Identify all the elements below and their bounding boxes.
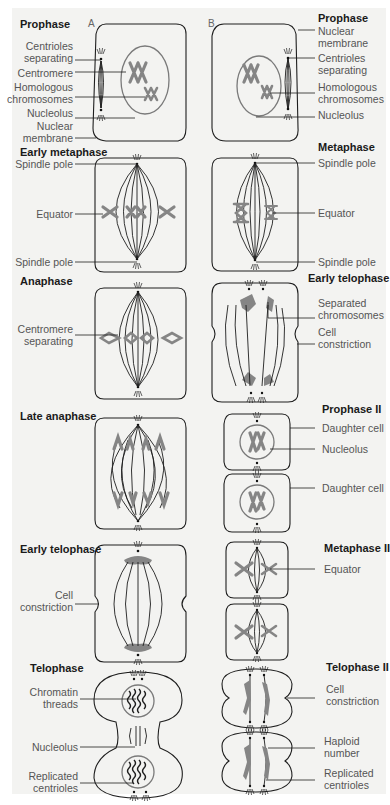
stage-title-b-metaphase-ii: Metaphase II <box>324 542 390 554</box>
label-centromere-separating: Centromereseparating <box>18 323 73 347</box>
stage-title-b-metaphase: Metaphase <box>318 141 375 153</box>
label-b-spindle-pole-top: Spindle pole <box>318 157 376 169</box>
label-homologous-chromosomes: Homologouschromosomes <box>7 81 73 105</box>
label-b-replicated-centrioles: Replicatedcentrioles <box>324 767 374 791</box>
cell-a-early-telophase <box>75 541 186 665</box>
stage-title-a-telophase: Telophase <box>30 662 84 674</box>
cell-b-prophase-ii <box>224 412 315 533</box>
stage-title-a-early-metaphase: Early metaphase <box>20 146 107 158</box>
stage-title-a-prophase: Prophase <box>20 18 70 30</box>
label-b-homologous-chromosomes: Homologouschromosomes <box>318 81 384 105</box>
stage-title-a-late-anaphase: Late anaphase <box>20 410 96 422</box>
cell-b-prophase <box>212 24 315 141</box>
label-b-centrioles-separating: Centriolesseparating <box>318 52 367 76</box>
stage-title-a-early-telophase: Early telophase <box>20 543 101 555</box>
column-label-b: B <box>208 18 215 29</box>
label-centrioles-separating: Centriolesseparating <box>24 40 73 64</box>
label-b-cell-constriction: Cellconstriction <box>318 326 371 350</box>
label-b-haploid-number: Haploidnumber <box>324 735 360 759</box>
cell-b-telophase-ii <box>222 666 315 795</box>
label-b-equator: Equator <box>318 207 355 219</box>
stage-title-b-prophase: Prophase <box>318 12 368 24</box>
stage-title-b-early-telophase: Early telophase <box>308 272 389 284</box>
label-centromere: Centromere <box>18 67 73 79</box>
cell-a-prophase <box>75 24 186 141</box>
label-replicated-centrioles: Replicatedcentrioles <box>28 770 78 794</box>
label-nucleolus: Nucleolus <box>27 107 73 119</box>
label-spindle-pole-top: Spindle pole <box>15 158 73 170</box>
label-b-cell-constriction-ii: Cellconstriction <box>326 683 379 707</box>
stage-title-b-prophase-ii: Prophase II <box>322 403 381 415</box>
label-b-daughter-cell-1: Daughter cell <box>322 422 384 434</box>
label-b-separated-chromosomes: Separatedchromosomes <box>318 297 384 321</box>
cell-b-metaphase <box>212 153 315 271</box>
stage-title-b-telophase-ii: Telophase II <box>326 661 389 673</box>
cell-a-early-metaphase <box>75 154 186 272</box>
label-nuclear-membrane: Nuclearmembrane <box>23 120 73 144</box>
label-cell-constriction: Cellconstriction <box>20 589 73 613</box>
label-spindle-pole-bottom: Spindle pole <box>15 256 73 268</box>
label-b-equator-ii: Equator <box>324 563 361 575</box>
cell-a-late-anaphase <box>95 415 186 531</box>
label-b-daughter-cell-2: Daughter cell <box>322 482 384 494</box>
label-b-nucleolus: Nucleolus <box>318 109 364 121</box>
cell-a-anaphase <box>75 282 186 399</box>
label-nucleolus-telophase: Nucleolus <box>32 741 78 753</box>
label-b-spindle-pole-bottom: Spindle pole <box>318 256 376 268</box>
column-label-a: A <box>88 18 95 29</box>
cell-b-metaphase-ii <box>226 539 315 662</box>
label-b-nucleolus-ii: Nucleolus <box>322 443 368 455</box>
label-b-nuclear-membrane: Nuclearmembrane <box>318 25 368 49</box>
label-equator: Equator <box>36 208 73 220</box>
label-chromatin-threads: Chromatinthreads <box>30 686 78 710</box>
cell-a-telophase <box>80 670 182 801</box>
stage-title-a-anaphase: Anaphase <box>20 275 73 287</box>
cell-b-early-telophase <box>212 280 315 403</box>
